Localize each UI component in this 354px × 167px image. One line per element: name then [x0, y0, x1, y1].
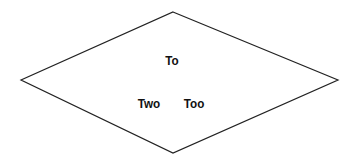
label-too: Too	[184, 97, 205, 110]
diagram-canvas: To Two Too	[0, 0, 354, 167]
diamond-shape	[0, 0, 354, 167]
label-to: To	[165, 54, 178, 67]
label-two: Two	[138, 97, 161, 110]
